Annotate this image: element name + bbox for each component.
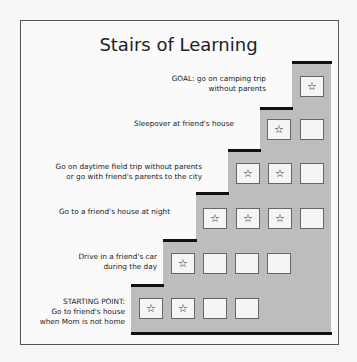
stair-edge [292,61,332,64]
star-box: ☆ [236,208,260,229]
empty-box [300,208,324,229]
empty-box [300,163,324,184]
empty-box [203,298,227,319]
stair-base [131,332,332,335]
star-box: ☆ [139,298,163,319]
star-box: ☆ [236,163,260,184]
empty-box [235,253,259,274]
step-label-sleepover: Sleepover at friend's house [134,119,234,129]
step-label-car: Drive in a friend's carduring the day [79,252,158,272]
star-box: ☆ [268,208,292,229]
empty-box [300,119,324,140]
stair-edge [228,149,261,152]
stair-edge [131,284,164,287]
stair-edge [196,192,229,195]
star-box: ☆ [171,298,195,319]
star-box: ☆ [267,119,291,140]
step-label-start: STARTING POINT:Go to friend's housewhen … [40,297,125,327]
stair-edge [163,239,197,242]
empty-box [203,253,227,274]
stair-step-6 [292,62,331,333]
empty-box [235,298,259,319]
diagram-title: Stairs of Learning [0,34,357,55]
star-box: ☆ [268,163,292,184]
star-box: ☆ [171,253,195,274]
stair-edge [260,107,293,110]
step-label-goal: GOAL: go on camping tripwithout parents [172,74,266,94]
star-box: ☆ [300,76,324,97]
empty-box [267,253,291,274]
step-label-field-trip: Go on daytime field trip without parents… [56,162,202,182]
star-box: ☆ [203,208,227,229]
step-label-night: Go to a friend's house at night [59,207,170,217]
